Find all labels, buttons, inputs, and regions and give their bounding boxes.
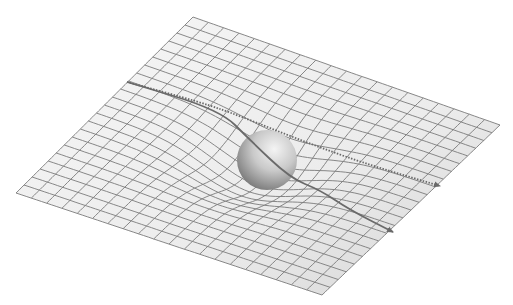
massive-sphere [237,130,297,190]
spacetime-diagram [0,0,513,305]
